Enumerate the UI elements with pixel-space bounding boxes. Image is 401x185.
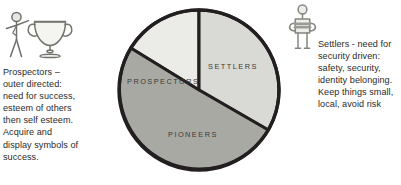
diagram-canvas: Prospectors – outer directed: need for s… [0, 0, 401, 185]
trophy-icon [28, 22, 71, 58]
settlers-line-4: identity belonging. [318, 74, 401, 86]
values-modes-pie-chart: PROSPECTORS SETTLERS PIONEERS [113, 3, 287, 179]
person-arms-out-icon [7, 12, 29, 56]
settler-icon-group [283, 1, 323, 53]
prospectors-line-5: then self esteem. [3, 114, 99, 126]
settlers-description: Settlers - need for security driven: saf… [318, 38, 401, 111]
prospectors-line-8: success. [3, 151, 99, 163]
settlers-line-1: Settlers - need for [318, 38, 401, 50]
settlers-line-3: safety, security, [318, 62, 401, 74]
prospector-icon-group [2, 4, 88, 60]
pie-label-pioneers: PIONEERS [168, 130, 218, 139]
settlers-line-5: Keep things small, [318, 86, 401, 98]
pie-label-settlers: SETTLERS [208, 62, 258, 71]
settler-icon-svg [283, 1, 323, 53]
prospectors-line-3: need for success, [3, 90, 99, 102]
prospectors-line-6: Acquire and [3, 126, 99, 138]
pie-chart-svg: PROSPECTORS SETTLERS PIONEERS [113, 3, 287, 179]
settlers-line-6: local, avoid risk [318, 98, 401, 110]
prospectors-line-7: display symbols of [3, 139, 99, 151]
pie-label-prospectors: PROSPECTORS [127, 77, 200, 86]
prospectors-line-2: outer directed: [3, 78, 99, 90]
prospectors-line-4: esteem of others [3, 102, 99, 114]
prospectors-description: Prospectors – outer directed: need for s… [3, 66, 99, 163]
prospector-icons-svg [2, 4, 88, 60]
person-hands-on-hips-icon [290, 5, 316, 48]
prospectors-line-1: Prospectors – [3, 66, 99, 78]
settlers-line-2: security driven: [318, 50, 401, 62]
